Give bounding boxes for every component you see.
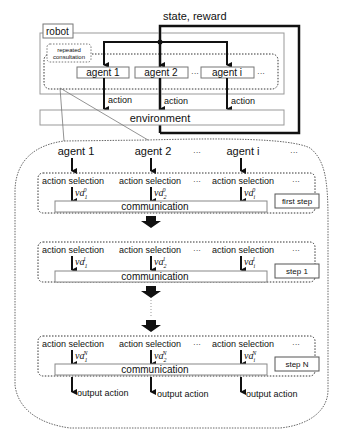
- svg-text:action selection: action selection: [119, 339, 181, 349]
- detail-agent-2: agent 2: [135, 145, 172, 157]
- svg-text:action selection: action selection: [212, 339, 274, 349]
- detail-agent-1: agent 1: [58, 145, 95, 157]
- step-label-1: step 1: [286, 267, 308, 276]
- agent-label-2: agent 2: [144, 67, 178, 78]
- svg-text:action selection: action selection: [212, 176, 274, 186]
- step-label-n: step N: [285, 360, 308, 369]
- svg-text:va10: va10: [75, 187, 87, 200]
- svg-text:···: ···: [292, 246, 300, 255]
- svg-text:vai0: vai0: [244, 187, 255, 200]
- svg-text:···: ···: [257, 69, 265, 78]
- step-n: action selection action selection ··· ac…: [38, 336, 319, 376]
- svg-text:communication: communication: [121, 271, 188, 282]
- svg-text:vai1: vai1: [244, 256, 255, 269]
- svg-text:va2N: va2N: [154, 350, 167, 363]
- consultation-label-1: repeated: [57, 47, 81, 53]
- svg-text:action selection: action selection: [119, 245, 181, 255]
- svg-text:action selection: action selection: [212, 245, 274, 255]
- svg-text:···: ···: [193, 246, 201, 255]
- svg-text:va11: va11: [75, 256, 87, 269]
- output-action-2: output action: [157, 389, 209, 399]
- step-first: action selection action selection ··· ac…: [38, 173, 319, 213]
- svg-text:va1N: va1N: [75, 350, 88, 363]
- svg-text:···: ···: [292, 340, 300, 349]
- svg-text:···: ···: [193, 340, 201, 349]
- output-action-i: output action: [246, 389, 298, 399]
- detail-agent-i: agent i: [226, 145, 259, 157]
- multi-agent-diagram: state, reward robot repeated consultatio…: [0, 0, 349, 435]
- down-arrow-icon: [141, 216, 161, 228]
- svg-text:communication: communication: [121, 364, 188, 375]
- svg-text:va20: va20: [154, 187, 166, 200]
- agent-label-i: agent i: [212, 67, 242, 78]
- step-label-first: first step: [282, 197, 313, 206]
- svg-text:action selection: action selection: [119, 176, 181, 186]
- action-label-2: action: [164, 96, 188, 106]
- svg-text:···: ···: [193, 148, 201, 157]
- environment-label: environment: [130, 112, 191, 124]
- step-1: action selection action selection ··· ac…: [38, 242, 319, 282]
- svg-text:action selection: action selection: [42, 176, 104, 186]
- action-label-i: action: [231, 96, 255, 106]
- svg-text:···: ···: [292, 177, 300, 186]
- agent-label-1: agent 1: [86, 67, 120, 78]
- svg-text:action selection: action selection: [42, 245, 104, 255]
- down-arrow-icon: [141, 286, 161, 298]
- consultation-label-2: consultation: [53, 54, 85, 60]
- robot-label: robot: [46, 26, 69, 37]
- output-action-1: output action: [77, 388, 129, 398]
- svg-text:communication: communication: [121, 201, 188, 212]
- svg-text:vaiN: vaiN: [244, 350, 257, 363]
- state-reward-label: state, reward: [163, 10, 227, 22]
- svg-text:va21: va21: [154, 256, 166, 269]
- svg-text:···: ···: [191, 69, 199, 78]
- svg-text:···: ···: [290, 148, 298, 157]
- svg-text:···: ···: [193, 177, 201, 186]
- svg-text:action selection: action selection: [42, 339, 104, 349]
- down-arrow-icon: [141, 320, 161, 332]
- action-label-1: action: [108, 95, 132, 105]
